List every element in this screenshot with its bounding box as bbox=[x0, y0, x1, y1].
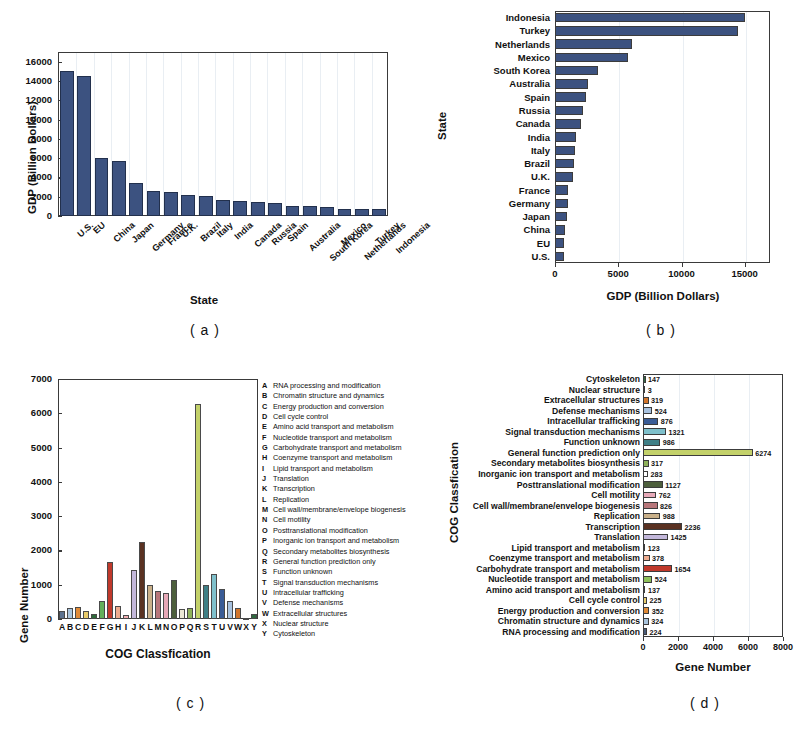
legend-label: Amino acid transport and metabolism bbox=[273, 422, 393, 432]
y-category-label: EU bbox=[400, 238, 550, 249]
bar bbox=[251, 202, 265, 216]
bar bbox=[163, 593, 169, 619]
x-tick-label: 6000 bbox=[738, 642, 758, 652]
x-category-label: O bbox=[170, 622, 178, 632]
bar bbox=[555, 106, 583, 116]
y-category-label: RNA processing and modification bbox=[458, 627, 640, 637]
bar bbox=[251, 614, 257, 619]
bar bbox=[555, 13, 745, 23]
gridline bbox=[354, 53, 355, 215]
panel-d-xlabel: Gene Number bbox=[675, 661, 750, 673]
x-category-label: L bbox=[146, 622, 154, 632]
bar-value-label: 3 bbox=[648, 386, 652, 395]
bar bbox=[555, 79, 588, 89]
bar bbox=[643, 597, 647, 604]
x-category-label: P bbox=[178, 622, 186, 632]
legend-item: QSecondary metabolites biosynthesis bbox=[262, 547, 400, 557]
legend-label: Replication bbox=[273, 495, 309, 505]
bar-value-label: 6274 bbox=[755, 449, 771, 458]
bar bbox=[555, 66, 598, 76]
y-tickmark bbox=[58, 516, 62, 517]
gridline bbox=[198, 53, 199, 215]
bar-value-label: 524 bbox=[655, 575, 667, 584]
gridline bbox=[320, 53, 321, 215]
legend-key: R bbox=[262, 557, 273, 567]
bar bbox=[181, 195, 195, 216]
y-tickmark bbox=[58, 62, 62, 63]
x-category-label: K bbox=[138, 622, 146, 632]
bar bbox=[227, 601, 233, 619]
bar-value-label: 524 bbox=[655, 407, 667, 416]
panel-a: GDP (Billion Dollars) 020004000600080001… bbox=[0, 0, 400, 345]
legend-item: KTranscription bbox=[262, 484, 400, 494]
x-category-label: Q bbox=[186, 622, 194, 632]
bar-value-label: 378 bbox=[652, 554, 664, 563]
panel-c: Gene Number 0100020003000400050006000700… bbox=[0, 365, 400, 730]
bar bbox=[643, 555, 650, 562]
bar bbox=[555, 53, 628, 63]
legend-item: FNucleotide transport and metabolism bbox=[262, 433, 400, 443]
bar bbox=[555, 238, 564, 248]
y-category-label: South Korea bbox=[400, 65, 550, 76]
panel-a-xlabel: State bbox=[190, 294, 218, 306]
y-category-label: Australia bbox=[400, 78, 550, 89]
y-tick-label: 6000 bbox=[31, 407, 52, 418]
legend-key: W bbox=[262, 609, 273, 619]
bar bbox=[555, 39, 632, 49]
bar bbox=[123, 615, 129, 619]
y-category-label: Function unknown bbox=[458, 437, 640, 447]
bar bbox=[91, 614, 97, 619]
bar-value-label: 988 bbox=[663, 512, 675, 521]
legend-label: Posttranslational modification bbox=[273, 526, 368, 536]
legend-key: D bbox=[262, 412, 273, 422]
bar bbox=[372, 209, 386, 216]
bar bbox=[643, 471, 648, 478]
bar-value-label: 826 bbox=[660, 502, 672, 511]
legend-label: Cell wall/membrane/envelope biogenesis bbox=[273, 505, 406, 515]
gridline bbox=[302, 53, 303, 215]
bar bbox=[643, 607, 649, 614]
gridline bbox=[285, 53, 286, 215]
bar bbox=[303, 206, 317, 216]
x-category-label: V bbox=[226, 622, 234, 632]
y-tick-label: 0 bbox=[47, 613, 52, 624]
x-category-label: E bbox=[90, 622, 98, 632]
bar bbox=[555, 119, 581, 129]
bar bbox=[643, 534, 668, 541]
bar bbox=[147, 191, 161, 216]
legend-item: BChromatin structure and dynamics bbox=[262, 391, 400, 401]
bar-value-label: 986 bbox=[663, 438, 675, 447]
y-tick-label: 4000 bbox=[31, 171, 52, 182]
x-category-label: A bbox=[58, 622, 66, 632]
legend-key: E bbox=[262, 422, 273, 432]
legend-label: General function prediction only bbox=[273, 557, 376, 567]
legend-label: Function unknown bbox=[273, 567, 332, 577]
y-tickmark bbox=[58, 482, 62, 483]
x-category-label: U bbox=[218, 622, 226, 632]
y-category-label: Extracellular structures bbox=[458, 395, 640, 405]
x-category-label: D bbox=[82, 622, 90, 632]
y-category-label: Russia bbox=[400, 105, 550, 116]
bar bbox=[179, 609, 185, 619]
bar bbox=[643, 418, 658, 425]
bar bbox=[115, 606, 121, 619]
bar bbox=[643, 565, 672, 572]
x-category-label: W bbox=[234, 622, 242, 632]
legend-item: DCell cycle control bbox=[262, 412, 400, 422]
legend-item: MCell wall/membrane/envelope biogenesis bbox=[262, 505, 400, 515]
y-category-label: U.S. bbox=[400, 251, 550, 262]
x-category-label: T bbox=[210, 622, 218, 632]
x-tickmark bbox=[748, 637, 749, 641]
bar-value-label: 1654 bbox=[674, 565, 690, 574]
bar bbox=[99, 601, 105, 619]
legend-key: B bbox=[262, 391, 273, 401]
y-category-label: Replication bbox=[458, 511, 640, 521]
legend-key: K bbox=[262, 484, 273, 494]
bar bbox=[139, 542, 145, 619]
bar bbox=[59, 611, 65, 619]
bar bbox=[555, 199, 568, 209]
panel-a-caption: ( a ) bbox=[190, 322, 220, 338]
bar bbox=[555, 92, 586, 102]
x-tickmark bbox=[745, 263, 746, 267]
x-category-label: M bbox=[154, 622, 162, 632]
